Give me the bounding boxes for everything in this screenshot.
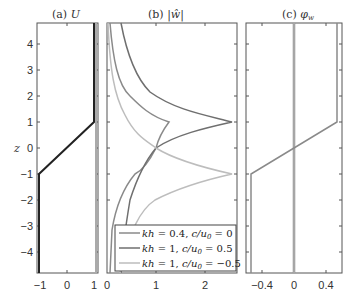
panel-a-title: (a) U bbox=[52, 8, 81, 21]
y-axis-label: z bbox=[13, 142, 20, 155]
panel-c-xtick-labels: −0.4 0 0.4 bbox=[251, 279, 334, 291]
panel-b: (b) |ŵ| 0 1 2 kh = 0.4, c/u0 = 0 kh = 1,… bbox=[104, 8, 241, 291]
svg-text:1: 1 bbox=[153, 279, 159, 291]
panel-c-title: (c) φw bbox=[282, 8, 314, 22]
panel-a-xtick-labels: −1 0 1 bbox=[34, 279, 97, 291]
svg-text:−2: −2 bbox=[20, 194, 33, 206]
svg-text:−1: −1 bbox=[34, 279, 47, 291]
svg-text:−3: −3 bbox=[20, 220, 33, 232]
svg-text:4: 4 bbox=[27, 38, 33, 50]
panel-b-title: (b) |ŵ| bbox=[148, 8, 184, 22]
svg-text:3: 3 bbox=[27, 64, 33, 76]
svg-text:0: 0 bbox=[27, 142, 33, 154]
svg-text:−4: −4 bbox=[20, 246, 33, 258]
svg-text:2: 2 bbox=[202, 279, 208, 291]
svg-text:0: 0 bbox=[104, 279, 110, 291]
panel-c: (c) φw −0.4 0 0.4 bbox=[246, 8, 342, 291]
svg-text:0.4: 0.4 bbox=[318, 279, 333, 291]
svg-text:0: 0 bbox=[64, 279, 70, 291]
svg-text:2: 2 bbox=[27, 90, 33, 102]
svg-text:−1: −1 bbox=[20, 168, 33, 180]
figure: (a) U 4 3 2 1 0 −1 −2 −3 −4 z −1 0 1 (b bbox=[0, 0, 354, 301]
panel-b-xtick-labels: 0 1 2 bbox=[104, 279, 208, 291]
panel-a-U-profile bbox=[39, 23, 94, 273]
panel-a: (a) U 4 3 2 1 0 −1 −2 −3 −4 z −1 0 1 bbox=[13, 8, 98, 291]
svg-text:1: 1 bbox=[91, 279, 97, 291]
svg-text:−0.4: −0.4 bbox=[251, 279, 273, 291]
svg-text:0: 0 bbox=[291, 279, 297, 291]
legend: kh = 0.4, c/u0 = 0 kh = 1, c/u0 = 0.5 kh… bbox=[115, 225, 241, 271]
y-tick-labels: 4 3 2 1 0 −1 −2 −3 −4 bbox=[20, 38, 33, 258]
svg-text:1: 1 bbox=[27, 116, 33, 128]
